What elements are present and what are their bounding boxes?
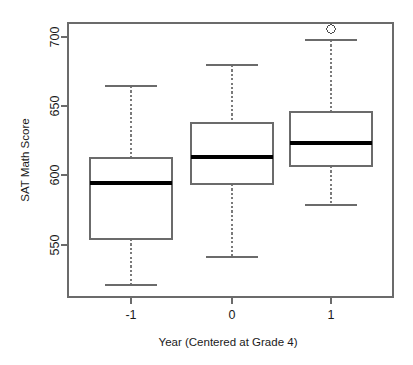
- x-axis-title: Year (Centered at Grade 4): [159, 336, 298, 348]
- boxplot-svg: 700 650 600 550 SAT Math Score -1: [0, 0, 413, 365]
- y-tick-label: 600: [48, 165, 62, 186]
- x-tick-label: 0: [229, 308, 236, 322]
- y-tick-label: 550: [48, 235, 62, 256]
- box-body: [191, 123, 273, 184]
- x-tick-label: -1: [125, 308, 136, 322]
- boxplot-figure: 700 650 600 550 SAT Math Score -1: [0, 0, 413, 365]
- y-tick-label: 700: [48, 27, 62, 48]
- y-axis-title: SAT Math Score: [19, 118, 31, 201]
- box-body: [290, 112, 372, 166]
- box-body: [90, 158, 172, 239]
- x-tick-label: 1: [328, 308, 335, 322]
- y-tick-label: 650: [48, 96, 62, 117]
